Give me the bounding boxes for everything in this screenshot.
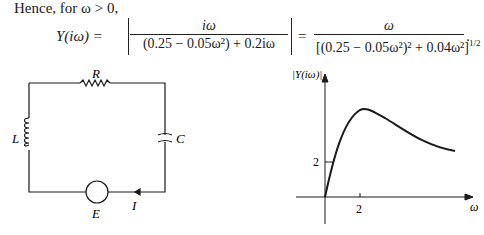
inductor-label: L: [11, 131, 19, 146]
resistor-label: R: [91, 66, 100, 81]
x-tick-label: 2: [356, 202, 362, 216]
rlc-circuit: [25, 80, 173, 203]
y-axis-label: |Y(iω)|: [292, 68, 322, 81]
response-curve: [325, 109, 455, 197]
y-axis-arrow-icon: [322, 74, 328, 82]
inductor-icon: [25, 118, 30, 146]
capacitor-label: C: [176, 131, 185, 146]
current-arrow-icon: [135, 189, 140, 195]
figures: R L C E I |Y(iω)| 2 2 ω: [0, 0, 484, 235]
voltage-source-icon: [86, 181, 108, 203]
x-axis-label: ω: [470, 200, 478, 214]
source-label: E: [91, 206, 100, 221]
current-label: I: [131, 198, 137, 213]
response-chart: [296, 74, 473, 224]
y-tick-label: 2: [313, 155, 319, 169]
